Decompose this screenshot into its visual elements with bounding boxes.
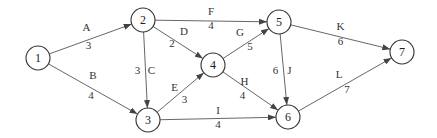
edge-name-label: C	[148, 64, 155, 76]
diagram-svg: 1234567 A3B4C3D2E3F4G5H4I4J6K6L7	[0, 0, 437, 138]
edge-weight-label: 7	[344, 83, 350, 95]
edge-weight-label: 2	[169, 37, 175, 49]
edge-name-label: E	[171, 81, 178, 93]
edge-weight-label: 4	[208, 19, 214, 31]
network-diagram: 1234567 A3B4C3D2E3F4G5H4I4J6K6L7	[0, 0, 437, 138]
node-label: 7	[399, 45, 405, 59]
edge-name-label: A	[83, 21, 91, 33]
edge-weight-label: 5	[247, 40, 253, 52]
edge-name-label: D	[180, 25, 188, 37]
node-label: 2	[140, 13, 146, 27]
edge-H	[223, 72, 278, 110]
edge-G	[223, 29, 269, 59]
edge-name-label: G	[236, 26, 244, 38]
edge-E	[157, 73, 204, 112]
edge-D	[153, 26, 203, 58]
node-label: 3	[145, 113, 151, 127]
edge-name-label: L	[336, 68, 343, 80]
node-label: 5	[276, 15, 282, 29]
edge-J	[280, 34, 287, 105]
edge-weight-label: 3	[135, 64, 141, 76]
edge-weight-label: 4	[88, 89, 94, 101]
edge-weight-label: 6	[338, 35, 344, 47]
edge-C	[144, 32, 148, 108]
edge-name-label: I	[216, 104, 220, 116]
edge-weight-label: 6	[273, 64, 279, 76]
edge-name-label: F	[208, 5, 214, 17]
node-label: 1	[35, 51, 41, 65]
edge-name-label: K	[337, 20, 345, 32]
edge-weight-label: 4	[240, 89, 246, 101]
edge-weight-label: 3	[86, 39, 92, 51]
edge-weight-label: 4	[215, 118, 221, 130]
edge-weight-label: 3	[182, 93, 188, 105]
edge-name-label: H	[241, 75, 249, 87]
edge-name-label: B	[89, 69, 96, 81]
node-label: 4	[210, 58, 216, 72]
node-label: 6	[285, 110, 291, 124]
edge-name-label: J	[287, 64, 292, 76]
